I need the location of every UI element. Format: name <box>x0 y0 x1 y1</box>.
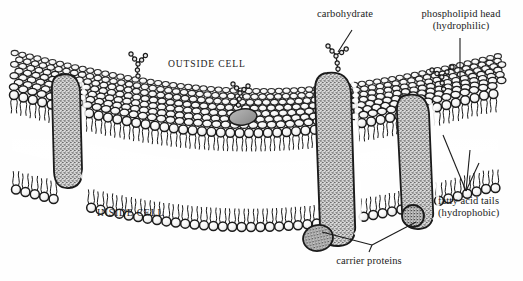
label-phospholipid-head: phospholipid head (hydrophilic) <box>402 8 520 32</box>
label-carbohydrate: carbohydrate <box>295 8 395 20</box>
label-inside-cell: INSIDE CELL <box>97 208 164 219</box>
label-carrier-proteins: carrier proteins <box>312 255 426 267</box>
label-fatty-acid-tails: fatty acid tails (hydrophobic) <box>438 195 522 219</box>
label-carbohydrate-text: carbohydrate <box>317 8 373 19</box>
label-fatty-acid-tails-line2: (hydrophobic) <box>438 207 522 219</box>
label-inside-cell-text: INSIDE CELL <box>97 207 164 218</box>
label-phospholipid-head-line1: phospholipid head <box>402 8 520 20</box>
label-outside-cell-text: OUTSIDE CELL <box>168 58 246 69</box>
membrane-diagram-canvas <box>0 0 523 281</box>
carrier-protein-left <box>52 74 85 188</box>
glycoprotein-chain-center <box>326 44 348 72</box>
label-carrier-proteins-text: carrier proteins <box>336 255 401 266</box>
label-outside-cell: OUTSIDE CELL <box>168 59 246 70</box>
membrane-diagram-figure: carbohydrate phospholipid head (hydrophi… <box>0 0 523 281</box>
glycolipid-chain-left <box>129 52 148 78</box>
label-fatty-acid-tails-line1: fatty acid tails <box>438 195 522 207</box>
label-phospholipid-head-line2: (hydrophilic) <box>402 20 520 32</box>
